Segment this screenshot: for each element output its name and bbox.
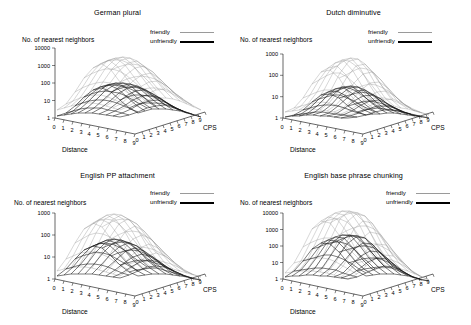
svg-text:4: 4 bbox=[87, 292, 90, 298]
svg-text:3: 3 bbox=[307, 290, 310, 296]
svg-text:4: 4 bbox=[87, 131, 90, 137]
svg-text:7: 7 bbox=[412, 121, 415, 127]
svg-text:5: 5 bbox=[324, 132, 327, 138]
y-axis-label: CPS bbox=[431, 124, 445, 131]
svg-text:7: 7 bbox=[184, 283, 187, 289]
svg-text:6: 6 bbox=[333, 296, 336, 302]
svg-text:2: 2 bbox=[298, 288, 301, 294]
z-tick-1000: 1000 bbox=[266, 227, 278, 233]
svg-text:7: 7 bbox=[114, 136, 117, 142]
svg-text:4: 4 bbox=[163, 128, 166, 134]
z-tick-100: 100 bbox=[41, 80, 50, 86]
svg-text:6: 6 bbox=[177, 285, 180, 291]
svg-text:1: 1 bbox=[142, 296, 145, 302]
svg-text:3: 3 bbox=[156, 130, 159, 136]
svg-text:2: 2 bbox=[149, 132, 152, 138]
svg-text:5: 5 bbox=[324, 294, 327, 300]
z-tick-10: 10 bbox=[44, 98, 50, 104]
surface-plot: 1 10 100 1000 0 1 2 3 4 5 6 7 8 9 bbox=[236, 0, 471, 162]
chart-panel-english-pp-attachment: English PP attachment No. of nearest nei… bbox=[0, 163, 235, 325]
z-tick-100: 100 bbox=[41, 232, 50, 238]
surface-plot: 1 10 100 1000 0 1 2 3 4 5 6 7 8 9 bbox=[0, 163, 235, 325]
svg-text:7: 7 bbox=[342, 136, 345, 142]
x-axis-label: Distance bbox=[290, 146, 316, 153]
svg-text:0: 0 bbox=[135, 299, 138, 305]
svg-text:1: 1 bbox=[289, 125, 292, 131]
svg-text:6: 6 bbox=[333, 134, 336, 140]
svg-text:3: 3 bbox=[156, 292, 159, 298]
svg-text:3: 3 bbox=[384, 292, 387, 298]
svg-text:4: 4 bbox=[391, 290, 394, 296]
surface-plot: 1 10 100 1000 10000 0 1 2 3 4 5 6 7 8 9 bbox=[236, 163, 471, 325]
svg-text:2: 2 bbox=[298, 127, 301, 133]
x-axis-label: Distance bbox=[290, 308, 316, 315]
svg-text:0: 0 bbox=[280, 285, 283, 291]
svg-text:0: 0 bbox=[52, 285, 55, 291]
surface-plot: 1 10 100 1000 10000 0 1 2 3 4 5 6 7 8 bbox=[0, 0, 235, 162]
z-tick-1: 1 bbox=[275, 115, 278, 121]
chart-panel-dutch-diminutive: Dutch diminutive No. of nearest neighbor… bbox=[236, 0, 471, 162]
svg-text:1: 1 bbox=[142, 134, 145, 140]
chart-panel-english-base-phrase-chunking: English base phrase chunking No. of near… bbox=[236, 163, 471, 325]
svg-text:4: 4 bbox=[315, 292, 318, 298]
y-axis-label: CPS bbox=[203, 124, 217, 131]
x-axis-label: Distance bbox=[62, 308, 88, 315]
svg-text:1: 1 bbox=[289, 286, 292, 292]
z-tick-10: 10 bbox=[44, 254, 50, 260]
svg-text:8: 8 bbox=[123, 138, 126, 144]
z-tick-1: 1 bbox=[47, 276, 50, 282]
svg-text:5: 5 bbox=[170, 288, 173, 294]
svg-text:3: 3 bbox=[384, 130, 387, 136]
svg-text:5: 5 bbox=[398, 126, 401, 132]
svg-text:4: 4 bbox=[315, 131, 318, 137]
z-tick-10: 10 bbox=[272, 260, 278, 266]
z-tick-1000: 1000 bbox=[38, 210, 50, 216]
svg-text:2: 2 bbox=[377, 132, 380, 138]
svg-text:6: 6 bbox=[177, 123, 180, 129]
svg-text:5: 5 bbox=[96, 294, 99, 300]
svg-text:2: 2 bbox=[70, 127, 73, 133]
z-tick-1: 1 bbox=[47, 115, 50, 121]
svg-text:4: 4 bbox=[163, 290, 166, 296]
svg-text:7: 7 bbox=[114, 298, 117, 304]
svg-text:3: 3 bbox=[307, 129, 310, 135]
svg-text:7: 7 bbox=[184, 121, 187, 127]
z-tick-10: 10 bbox=[272, 94, 278, 100]
svg-text:0: 0 bbox=[280, 124, 283, 130]
svg-text:8: 8 bbox=[351, 299, 354, 305]
svg-text:8: 8 bbox=[191, 119, 194, 125]
svg-text:0: 0 bbox=[52, 124, 55, 130]
svg-text:5: 5 bbox=[96, 132, 99, 138]
svg-text:7: 7 bbox=[342, 298, 345, 304]
svg-text:6: 6 bbox=[105, 296, 108, 302]
svg-text:8: 8 bbox=[191, 281, 194, 287]
z-tick-10000: 10000 bbox=[262, 210, 278, 216]
svg-text:0: 0 bbox=[135, 137, 138, 143]
svg-text:6: 6 bbox=[405, 123, 408, 129]
svg-text:2: 2 bbox=[377, 294, 380, 300]
svg-text:9: 9 bbox=[198, 117, 201, 123]
svg-text:8: 8 bbox=[419, 119, 422, 125]
svg-text:8: 8 bbox=[419, 281, 422, 287]
y-axis-label: CPS bbox=[203, 286, 217, 293]
svg-text:5: 5 bbox=[398, 288, 401, 294]
svg-text:2: 2 bbox=[70, 288, 73, 294]
z-tick-1000: 1000 bbox=[266, 51, 278, 57]
svg-text:1: 1 bbox=[61, 125, 64, 131]
svg-text:1: 1 bbox=[370, 134, 373, 140]
figure-canvas: German plural No. of nearest neighbors f… bbox=[0, 0, 471, 325]
svg-text:8: 8 bbox=[351, 138, 354, 144]
svg-text:4: 4 bbox=[391, 128, 394, 134]
svg-text:3: 3 bbox=[79, 290, 82, 296]
z-tick-100: 100 bbox=[269, 243, 278, 249]
z-tick-100: 100 bbox=[269, 72, 278, 78]
z-tick-10000: 10000 bbox=[34, 45, 50, 51]
svg-text:8: 8 bbox=[123, 299, 126, 305]
y-axis-label: CPS bbox=[431, 286, 445, 293]
svg-text:6: 6 bbox=[405, 285, 408, 291]
svg-text:0: 0 bbox=[363, 137, 366, 143]
z-tick-1: 1 bbox=[275, 276, 278, 282]
z-tick-1000: 1000 bbox=[38, 63, 50, 69]
chart-panel-german-plural: German plural No. of nearest neighbors f… bbox=[0, 0, 235, 162]
svg-text:1: 1 bbox=[61, 286, 64, 292]
